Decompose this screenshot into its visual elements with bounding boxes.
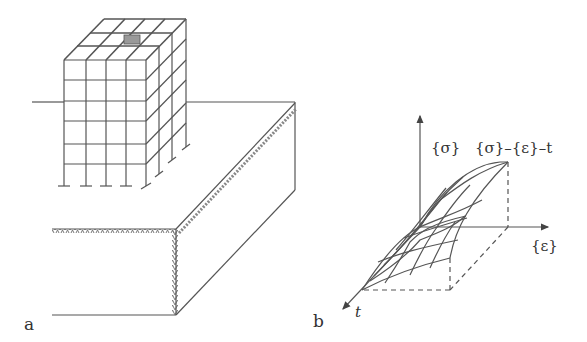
retaining-wall-hatch-side — [179, 109, 296, 233]
stress-strain-time-surface — [362, 162, 508, 290]
panel-label-b: b — [313, 313, 324, 330]
panel-label-a: a — [24, 316, 34, 333]
sigma-axis-label: {σ} — [431, 141, 460, 156]
surface-label: {σ}–{ε}–t — [475, 141, 552, 156]
retaining-wall-hatch-corner — [172, 229, 178, 315]
building-frame-right-face — [146, 19, 190, 177]
epsilon-axis-label: {ε} — [531, 239, 558, 254]
panel-a-diagram — [32, 19, 296, 315]
figure-canvas — [0, 0, 587, 342]
t-axis-label: t — [355, 305, 361, 320]
retaining-wall-hatch-front — [52, 229, 176, 233]
roof-equipment — [124, 35, 140, 44]
building-frame-top-face — [64, 19, 186, 60]
excavation-pit — [52, 102, 296, 315]
building-frame-front-face — [58, 60, 151, 189]
projection-dashed-lines — [362, 162, 508, 290]
pit-bottom-diagonal — [176, 190, 295, 315]
